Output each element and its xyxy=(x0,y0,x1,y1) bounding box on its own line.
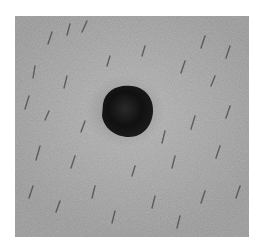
lesion-image xyxy=(15,16,249,237)
skin-lesion-photo xyxy=(15,16,249,237)
